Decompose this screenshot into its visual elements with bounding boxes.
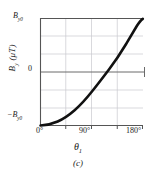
y-axis-title-sub: y xyxy=(13,63,19,66)
x-tick-label-0: 0° xyxy=(36,126,43,135)
y-tick-bottom-sub: y0 xyxy=(17,115,22,121)
y-tick-label-top: By0 xyxy=(13,11,23,22)
y-axis-title-symbol: B xyxy=(7,66,17,72)
panel-caption: (c) xyxy=(0,158,156,168)
figure-panel-c: By (μT) By0 0 −By0 0° 90° 180° θ1 (c) xyxy=(0,0,156,179)
y-tick-label-bottom: −By0 xyxy=(7,110,22,121)
x-axis-title: θ1 xyxy=(0,141,156,154)
y-axis-title: By (μT) xyxy=(7,23,19,93)
y-tick-bottom-symbol: −B xyxy=(7,110,17,119)
y-tick-label-zero: 0 xyxy=(28,64,32,73)
x-axis-title-sub: 1 xyxy=(79,147,82,154)
x-tick-label-90: 90° xyxy=(79,126,90,135)
x-tick-label-180: 180° xyxy=(126,126,141,135)
y-axis-title-units: (μT) xyxy=(7,44,17,60)
y-tick-top-sub: y0 xyxy=(18,16,23,22)
